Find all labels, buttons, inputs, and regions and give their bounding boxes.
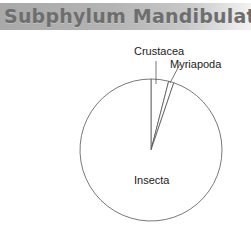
- pie-chart: Crustacea Myriapoda Insecta: [0, 0, 251, 239]
- pie-slice-insecta: [80, 79, 222, 221]
- label-myriapoda: Myriapoda: [170, 58, 222, 70]
- pie-slices: [80, 79, 222, 221]
- label-insecta: Insecta: [134, 174, 170, 186]
- label-crustacea: Crustacea: [134, 45, 185, 57]
